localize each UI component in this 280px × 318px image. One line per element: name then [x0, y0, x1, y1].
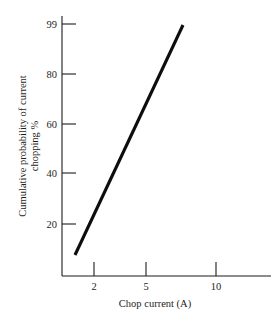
probability-plot: 20 40 60 80 99 2 5 10 Chop current (A) C…	[0, 0, 280, 318]
y-tick-label-60: 60	[47, 119, 58, 130]
y-tick-label-20: 20	[47, 219, 58, 230]
x-tick-label-5: 5	[143, 281, 148, 292]
chart-figure: 20 40 60 80 99 2 5 10 Chop current (A) C…	[0, 0, 280, 318]
data-series-line	[75, 25, 183, 255]
y-axis-title-line2: chopping %	[29, 121, 40, 172]
y-tick-label-40: 40	[47, 168, 58, 179]
x-tick-label-2: 2	[91, 281, 96, 292]
y-tick-label-99: 99	[47, 19, 58, 30]
x-tick-label-10: 10	[211, 281, 222, 292]
y-tick-label-80: 80	[47, 69, 58, 80]
y-axis-title-line1: Cumulative probability of current	[17, 75, 28, 217]
x-axis-title: Chop current (A)	[119, 298, 192, 310]
